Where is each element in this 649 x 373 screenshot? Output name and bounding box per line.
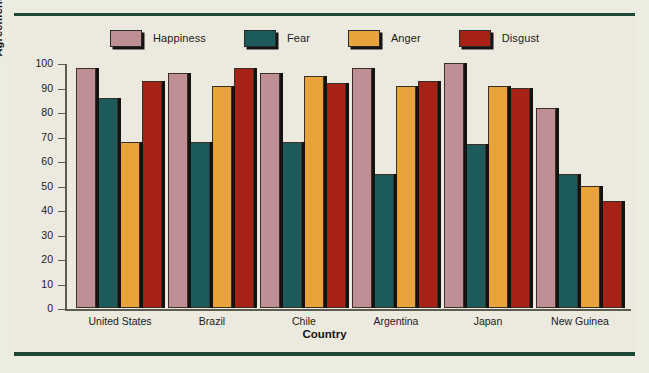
y-tick-mark — [58, 89, 65, 90]
y-tick-label: 80 — [27, 106, 53, 118]
bar — [168, 73, 188, 308]
y-tick-mark — [58, 187, 65, 188]
bar — [374, 174, 394, 308]
legend-label: Anger — [391, 32, 421, 44]
y-tick-mark — [58, 260, 65, 261]
bar-group: Brazil — [168, 63, 256, 308]
plot-area: 0102030405060708090100 United StatesBraz… — [65, 64, 630, 310]
bar — [536, 108, 556, 308]
y-tick-label: 40 — [27, 204, 53, 216]
bar — [602, 201, 622, 308]
legend-item: Disgust — [459, 30, 539, 47]
legend-label: Happiness — [153, 32, 206, 44]
y-tick-label: 50 — [27, 180, 53, 192]
bar — [444, 63, 464, 308]
y-tick-label: 100 — [27, 57, 53, 69]
y-tick-mark — [58, 162, 65, 163]
bar — [260, 73, 280, 308]
x-tick-label: New Guinea — [512, 315, 648, 327]
bar — [76, 68, 96, 308]
bar-group: United States — [76, 63, 164, 308]
bar-group: Argentina — [352, 63, 440, 308]
top-rule — [14, 13, 635, 16]
bar — [510, 88, 530, 308]
legend-item: Anger — [348, 30, 421, 47]
y-tick-label: 30 — [27, 229, 53, 241]
y-tick-label: 70 — [27, 131, 53, 143]
y-axis-title: Agreement in judging photos (%) — [0, 0, 4, 72]
y-tick-label: 60 — [27, 155, 53, 167]
x-axis-line — [65, 309, 631, 311]
bar — [580, 186, 600, 308]
bar — [488, 86, 508, 309]
y-tick-mark — [58, 211, 65, 212]
bar-group: Chile — [260, 63, 348, 308]
bar — [352, 68, 372, 308]
bar — [282, 142, 302, 308]
legend-swatch-disgust — [459, 30, 491, 47]
bar — [142, 81, 162, 308]
legend-swatch-fear — [244, 30, 276, 47]
bar-group: New Guinea — [536, 63, 624, 308]
bar — [396, 86, 416, 309]
y-tick-label: 0 — [27, 302, 53, 314]
legend-item: Happiness — [110, 30, 206, 47]
bar — [304, 76, 324, 308]
y-tick-mark — [58, 113, 65, 114]
y-tick-label: 90 — [27, 82, 53, 94]
bar — [558, 174, 578, 308]
y-tick-label: 10 — [27, 278, 53, 290]
y-tick-mark — [58, 236, 65, 237]
legend-swatch-happiness — [110, 30, 142, 47]
y-tick-mark — [58, 64, 65, 65]
legend-label: Disgust — [502, 32, 539, 44]
bar — [120, 142, 140, 308]
bar-group: Japan — [444, 63, 532, 308]
legend-label: Fear — [287, 32, 310, 44]
bottom-rule — [14, 352, 635, 356]
bar — [418, 81, 438, 308]
bar — [326, 83, 346, 308]
bar — [234, 68, 254, 308]
x-axis-title: Country — [0, 328, 649, 340]
y-tick-mark — [58, 309, 65, 310]
figure: HappinessFearAngerDisgust Agreement in j… — [0, 0, 649, 373]
y-tick-mark — [58, 138, 65, 139]
legend-swatch-anger — [348, 30, 380, 47]
legend-item: Fear — [244, 30, 310, 47]
bar — [98, 98, 118, 308]
bar — [212, 86, 232, 309]
chart-legend: HappinessFearAngerDisgust — [110, 26, 580, 50]
y-tick-label: 20 — [27, 253, 53, 265]
y-tick-mark — [58, 285, 65, 286]
bar — [466, 144, 486, 308]
y-axis-line — [65, 64, 67, 311]
bar — [190, 142, 210, 308]
